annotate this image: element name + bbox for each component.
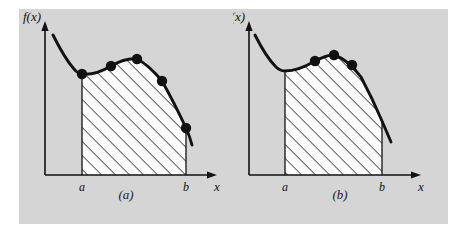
figure-panel: f(x) x a b (a) <box>19 9 448 224</box>
data-point <box>181 123 191 133</box>
caption-b: (b) <box>233 187 447 203</box>
x-axis-arrow-b <box>411 171 421 178</box>
data-point <box>329 50 339 60</box>
y-axis-label-a: f(x) <box>23 9 41 24</box>
shaded-region-a <box>82 59 186 175</box>
data-point <box>157 76 167 86</box>
data-point <box>347 60 357 70</box>
y-axis-arrow-b <box>245 21 252 31</box>
data-point <box>132 54 142 64</box>
subfigure-a: f(x) x a b (a) <box>19 9 233 224</box>
shaded-region-b <box>285 55 382 175</box>
data-point <box>106 61 116 71</box>
y-axis-arrow-a <box>41 21 48 31</box>
data-point <box>310 56 320 66</box>
x-axis-arrow-a <box>207 171 217 178</box>
data-point <box>77 69 87 79</box>
y-axis-label-b: f(x) <box>233 9 245 24</box>
subfigure-b: f(x) x a b (b) <box>233 9 447 224</box>
caption-a: (a) <box>19 187 233 203</box>
